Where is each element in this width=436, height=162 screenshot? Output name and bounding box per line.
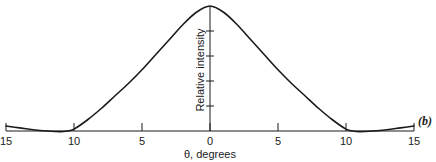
x-tick-label: 10 <box>68 135 80 147</box>
x-tick-label: 10 <box>340 135 352 147</box>
x-tick-label: 15 <box>0 135 12 147</box>
x-axis-title: θ, degrees <box>184 148 236 160</box>
panel-label: (b) <box>418 114 432 128</box>
y-axis <box>206 6 214 131</box>
x-tick-label: 0 <box>207 135 213 147</box>
x-tick-label: 5 <box>139 135 145 147</box>
x-tick-label: 15 <box>408 135 420 147</box>
y-axis-title: Relative intensity <box>194 28 206 112</box>
x-tick-label: 5 <box>275 135 281 147</box>
intensity-chart: 15105051015 θ, degrees Relative intensit… <box>0 0 436 162</box>
